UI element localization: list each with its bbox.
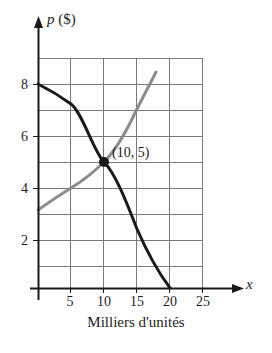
equilibrium-point-label: (10, 5) bbox=[112, 146, 149, 160]
x-tick-label-15: 15 bbox=[125, 295, 149, 309]
x-tick-label-10: 10 bbox=[92, 295, 116, 309]
chart-caption: Milliers d'unités bbox=[0, 315, 272, 330]
horizontal-gridlines bbox=[38, 59, 203, 267]
x-tick-label-20: 20 bbox=[158, 295, 182, 309]
supply-demand-chart: p ($) x 5 10 15 20 25 8 6 4 2 (10, 5) Mi… bbox=[0, 0, 272, 353]
y-axis-arrow-icon bbox=[34, 16, 43, 28]
y-tick-label-4: 4 bbox=[10, 182, 28, 196]
y-tick-label-2: 2 bbox=[10, 234, 28, 248]
x-tick-label-5: 5 bbox=[58, 295, 82, 309]
equilibrium-point-marker bbox=[99, 157, 109, 167]
y-tick-label-6: 6 bbox=[10, 130, 28, 144]
x-tick-label-25: 25 bbox=[191, 295, 215, 309]
y-tick-label-8: 8 bbox=[10, 78, 28, 92]
y-axis-label-unit: ($) bbox=[58, 11, 76, 27]
y-axis-label: p ($) bbox=[47, 12, 76, 27]
y-axis-label-symbol: p bbox=[47, 11, 55, 27]
x-axis-label: x bbox=[246, 277, 253, 292]
x-axis-arrow-icon bbox=[232, 284, 244, 293]
